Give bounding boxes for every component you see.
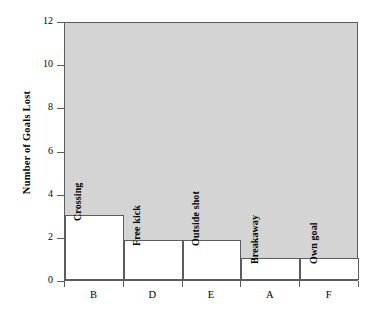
- y-axis-tick-mark: [57, 108, 64, 109]
- y-axis-tick-mark: [57, 22, 64, 23]
- x-axis-tick-label: B: [90, 289, 97, 300]
- y-axis-tick-label: 10: [43, 58, 53, 69]
- x-axis-tick-label: F: [326, 289, 332, 300]
- bar-caption: Own goal: [308, 223, 319, 265]
- bar[interactable]: [183, 240, 242, 280]
- x-axis-tick-label: D: [148, 289, 156, 300]
- y-axis-tick-mark: [57, 281, 64, 282]
- x-axis-tick-mark: [358, 281, 359, 287]
- bar-caption: Breakaway: [249, 215, 260, 264]
- y-axis-tick-label: 2: [48, 231, 53, 242]
- x-axis-tick-label: E: [208, 289, 214, 300]
- bar-caption: Crossing: [72, 183, 83, 221]
- bar[interactable]: [65, 215, 124, 280]
- x-axis-tick-mark: [182, 281, 183, 287]
- y-axis-tick-mark: [57, 152, 64, 153]
- y-axis-tick-label: 8: [48, 101, 53, 112]
- y-axis-title: Number of Goals Lost: [21, 53, 32, 233]
- x-axis-tick-mark: [240, 281, 241, 287]
- y-axis-tick-label: 6: [48, 145, 53, 156]
- bar-caption: Outside shot: [190, 191, 201, 246]
- y-axis-tick-mark: [57, 195, 64, 196]
- y-axis-tick-mark: [57, 65, 64, 66]
- bar[interactable]: [124, 240, 183, 280]
- x-axis-tick-mark: [64, 281, 65, 287]
- bar-caption: Free kick: [131, 205, 142, 246]
- y-axis-tick-mark: [57, 238, 64, 239]
- y-axis-tick-label: 4: [48, 188, 53, 199]
- y-axis-tick-label: 12: [43, 15, 53, 26]
- pareto-bar-chart: Number of Goals Lost 024681012 CrossingF…: [0, 0, 373, 319]
- y-axis-tick-label: 0: [48, 274, 53, 285]
- x-axis-tick-mark: [123, 281, 124, 287]
- x-axis-tick-mark: [299, 281, 300, 287]
- x-axis-tick-label: A: [266, 289, 274, 300]
